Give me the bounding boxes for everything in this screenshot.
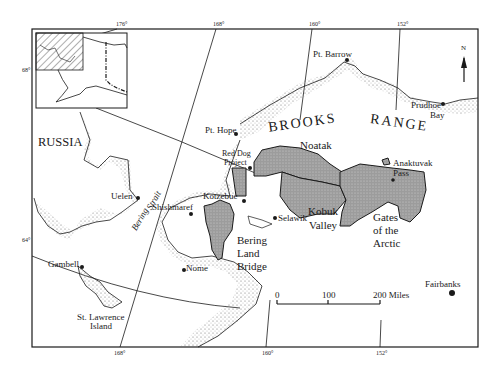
lon-label-160-bottom: 160° xyxy=(262,350,273,356)
st-lawrence-island xyxy=(78,266,122,308)
label-nome: Nome xyxy=(186,264,208,273)
label-project: Project xyxy=(224,159,247,167)
label-anaktuvak: Anaktuvak xyxy=(393,159,433,168)
label-gambell: Gambell xyxy=(48,260,79,269)
meridian-152-south xyxy=(380,320,381,347)
lon-label-152-top: 152° xyxy=(397,21,408,27)
label-fairbanks: Fairbanks xyxy=(425,280,461,289)
lat-label-64: 64° xyxy=(22,237,30,243)
label-pt-hope: Pt. Hope xyxy=(205,126,237,135)
lon-label-152-bottom: 152° xyxy=(376,350,387,356)
north-arrow-icon xyxy=(461,56,467,82)
label-island: Island xyxy=(90,322,112,331)
label-shishmaref: Shishmaref xyxy=(152,203,193,212)
dot-fairbanks xyxy=(449,290,455,296)
dot-anaktuvak xyxy=(391,178,395,182)
label-bridge: Bridge xyxy=(237,261,267,272)
north-label: N xyxy=(461,45,466,52)
meridian-160-south xyxy=(266,300,270,347)
meridian-168 xyxy=(120,29,216,347)
coastline-russia xyxy=(34,110,140,240)
lon-label-176: 176° xyxy=(116,21,127,27)
lon-label-168-bottom: 168° xyxy=(114,350,125,356)
label-land: Land xyxy=(237,248,260,259)
label-gates: Gates xyxy=(373,212,398,223)
map-canvas xyxy=(0,0,503,374)
dot-red-dog xyxy=(248,166,252,170)
dot-kotzebue xyxy=(242,199,246,203)
label-noatak: Noatak xyxy=(300,140,332,151)
region-russia: RUSSIA xyxy=(38,136,82,149)
label-pt-barrow: Pt. Barrow xyxy=(313,50,352,59)
label-valley: Valley xyxy=(309,220,337,231)
scale-label-100: 100 xyxy=(322,291,336,300)
label-uelen: Uelen xyxy=(111,192,133,201)
label-kobuk: Kobuk xyxy=(308,206,338,217)
label-red-dog: Red Dog xyxy=(222,150,251,158)
label-kotzebue: Kotzebue xyxy=(203,192,237,201)
scale-bar xyxy=(277,300,380,304)
park-bering-land-bridge xyxy=(204,200,234,260)
meridian-160 xyxy=(300,29,312,120)
selawik-lake xyxy=(248,216,272,228)
inset-map xyxy=(36,33,127,108)
scale-label-200: 200 Miles xyxy=(373,291,409,300)
label-prudhoe: Prudhoe xyxy=(411,101,441,110)
dot-gambell xyxy=(80,265,84,269)
lat-label-68: 68° xyxy=(22,67,30,73)
label-selawik: Selawik xyxy=(278,214,307,223)
scale-label-0: 0 xyxy=(275,291,280,300)
dot-shishmaref xyxy=(189,212,193,216)
dot-uelen xyxy=(136,196,140,200)
label-of-the: of the xyxy=(373,225,398,236)
label-pass: Pass xyxy=(393,169,409,178)
dot-selawik xyxy=(273,216,277,220)
dot-prudhoe-bay xyxy=(441,102,445,106)
lon-label-160-top: 160° xyxy=(309,21,320,27)
label-arctic: Arctic xyxy=(373,238,400,249)
lon-label-168-top: 168° xyxy=(213,21,224,27)
label-prudhoe-bay: Bay xyxy=(430,111,445,120)
label-bering-park: Bering xyxy=(237,235,267,246)
